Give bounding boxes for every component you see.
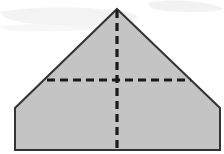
fold-diagram-canvas: Paper airplane fold step diagram Gray pe… [0, 0, 224, 154]
fold-diagram-figure: Paper airplane fold step diagram Gray pe… [0, 0, 224, 154]
